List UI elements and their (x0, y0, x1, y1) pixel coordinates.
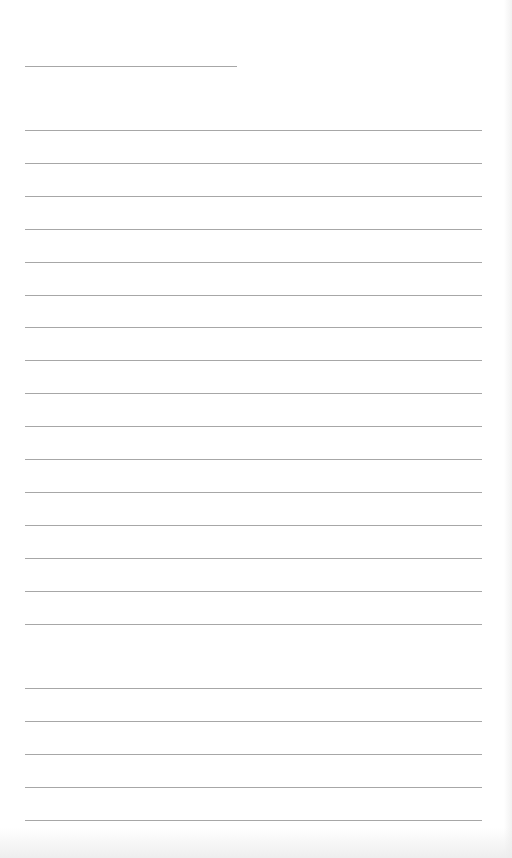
lined-paper-page (0, 0, 512, 858)
ruled-line (25, 163, 482, 164)
ruled-line (25, 393, 482, 394)
ruled-line (25, 754, 482, 755)
page-edge-shadow (504, 0, 512, 858)
ruled-line (25, 558, 482, 559)
ruled-line (25, 787, 482, 788)
ruled-line (25, 492, 482, 493)
ruled-line (25, 229, 482, 230)
header-rule-line (25, 66, 237, 67)
ruled-line (25, 591, 482, 592)
ruled-line (25, 262, 482, 263)
ruled-line (25, 360, 482, 361)
ruled-line (25, 426, 482, 427)
ruled-line (25, 459, 482, 460)
page-bottom-shadow (0, 828, 512, 858)
ruled-line (25, 295, 482, 296)
ruled-line (25, 820, 482, 821)
ruled-line (25, 196, 482, 197)
ruled-line (25, 721, 482, 722)
ruled-line (25, 688, 482, 689)
ruled-line (25, 525, 482, 526)
ruled-line (25, 624, 482, 625)
ruled-line (25, 130, 482, 131)
ruled-line (25, 327, 482, 328)
